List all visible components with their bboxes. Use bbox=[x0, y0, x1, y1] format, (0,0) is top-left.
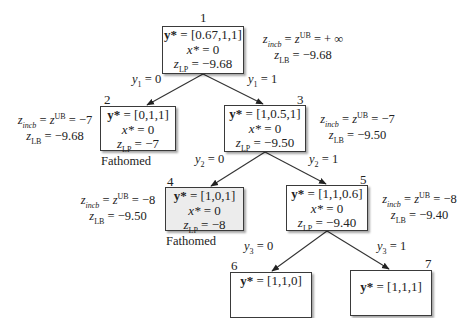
node-annotation: zincb = zUB = −8 zLB = −9.50 bbox=[72, 192, 164, 224]
y-star-line: y* = [1,0,1] bbox=[166, 189, 243, 204]
z-lp-line: zLP = −9.40 bbox=[287, 216, 367, 231]
branch-label-y3-0: y3 = 0 bbox=[244, 240, 273, 253]
branch-label-y3-1: y3 = 1 bbox=[377, 240, 406, 253]
node-number: 2 bbox=[104, 93, 111, 106]
node-number: 1 bbox=[200, 11, 207, 24]
x-star-line: x* = 0 bbox=[287, 202, 367, 217]
branch-label-y1-0: y1 = 0 bbox=[132, 73, 161, 86]
y-star-line: y* = [1,1,0.6] bbox=[287, 187, 367, 202]
z-lp-line: zLP = −8 bbox=[166, 218, 243, 233]
tree-node-5: y* = [1,1,0.6] x* = 0 zLP = −9.40 bbox=[286, 185, 368, 231]
tree-node-1: y* = [0.67,1,1] x* = 0 zLP = −9.68 bbox=[162, 26, 244, 74]
x-star-line: x* = 0 bbox=[163, 43, 243, 58]
x-star-line: x* = 0 bbox=[101, 123, 175, 138]
z-lp-line: zLP = −9.50 bbox=[225, 136, 305, 151]
node-number: 7 bbox=[425, 257, 432, 270]
branch-label-y2-1: y2 = 1 bbox=[309, 153, 338, 166]
node-number: 6 bbox=[231, 259, 238, 272]
fathomed-label: Fathomed bbox=[166, 235, 216, 248]
edge-5-6 bbox=[272, 231, 327, 271]
branch-label-y1-1: y1 = 1 bbox=[248, 73, 277, 86]
tree-node-6: y* = [1,1,0] bbox=[230, 272, 312, 318]
branch-label-y2-0: y2 = 0 bbox=[195, 153, 224, 166]
z-lp-line: zLP = −7 bbox=[101, 137, 175, 152]
y-star-line: y* = [0,1,1] bbox=[101, 108, 175, 123]
x-star-line: x* = 0 bbox=[225, 122, 305, 137]
tree-node-3: y* = [1,0.5,1] x* = 0 zLP = −9.50 bbox=[224, 105, 306, 152]
node-annotation: zincb = zUB = −7 zLB = −9.50 bbox=[310, 111, 405, 143]
tree-node-7: y* = [1,1,1] bbox=[350, 270, 432, 316]
tree-node-4: y* = [1,0,1] x* = 0 zLP = −8 bbox=[165, 187, 244, 231]
node-annotation: zincb = zUB = −7 zLB = −9.68 bbox=[10, 112, 100, 144]
y-star-line: y* = [1,1,0] bbox=[231, 274, 311, 289]
tree-node-2: y* = [0,1,1] x* = 0 zLP = −7 bbox=[100, 106, 176, 151]
y-star-line: y* = [1,0.5,1] bbox=[225, 107, 305, 122]
y-star-line: y* = [1,1,1] bbox=[351, 280, 431, 295]
y-star-line: y* = [0.67,1,1] bbox=[163, 28, 243, 43]
z-lp-line: zLP = −9.68 bbox=[163, 57, 243, 72]
node-annotation: zincb = zUB = + ∞ zLB = −9.68 bbox=[248, 31, 358, 63]
node-annotation: zincb = zUB = −8 zLB = −9.40 bbox=[372, 191, 467, 223]
x-star-line: x* = 0 bbox=[166, 204, 243, 219]
fathomed-label: Fathomed bbox=[101, 155, 151, 168]
